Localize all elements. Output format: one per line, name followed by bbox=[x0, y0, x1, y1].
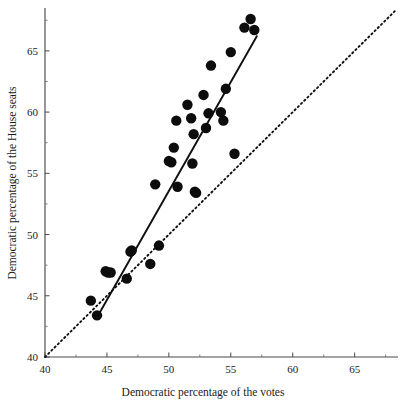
data-point bbox=[249, 25, 259, 35]
y-tick-label: 60 bbox=[27, 106, 39, 118]
x-tick-label: 50 bbox=[163, 363, 175, 375]
data-point bbox=[187, 158, 197, 168]
x-axis-ticks bbox=[45, 353, 386, 358]
x-tick-label: 60 bbox=[287, 363, 299, 375]
data-point bbox=[92, 310, 102, 320]
scatter-plot-figure: 404550556065 455055606540 Democratic per… bbox=[0, 0, 403, 406]
x-tick-label: 40 bbox=[40, 363, 52, 375]
data-point bbox=[166, 157, 176, 167]
x-axis-tick-labels: 404550556065 bbox=[40, 363, 361, 375]
data-point bbox=[191, 188, 201, 198]
data-point bbox=[86, 295, 96, 305]
data-point bbox=[145, 259, 155, 269]
y-axis-tick-labels: 455055606540 bbox=[27, 45, 39, 363]
data-point bbox=[245, 14, 255, 24]
x-tick-label: 45 bbox=[101, 363, 113, 375]
data-point bbox=[239, 22, 249, 32]
y-axis-ticks bbox=[45, 20, 50, 357]
plot-canvas: 404550556065 455055606540 Democratic per… bbox=[0, 0, 403, 406]
y-axis-title: Democratic percentage of the House seats bbox=[6, 86, 19, 280]
data-point bbox=[218, 115, 228, 125]
x-axis-title: Democratic percentage of the votes bbox=[122, 386, 285, 399]
proportionality-reference-line bbox=[45, 9, 397, 357]
data-point bbox=[150, 179, 160, 189]
regression-fit-line bbox=[99, 36, 256, 313]
data-point bbox=[169, 142, 179, 152]
data-point bbox=[201, 123, 211, 133]
data-point bbox=[198, 90, 208, 100]
data-point bbox=[221, 84, 231, 94]
data-point bbox=[229, 149, 239, 159]
data-point bbox=[182, 100, 192, 110]
data-point bbox=[172, 182, 182, 192]
data-point bbox=[171, 115, 181, 125]
data-point bbox=[186, 113, 196, 123]
y-tick-label: 55 bbox=[27, 167, 39, 179]
data-point bbox=[203, 108, 213, 118]
y-tick-label: 65 bbox=[27, 45, 39, 57]
data-point bbox=[226, 47, 236, 57]
data-point bbox=[154, 240, 164, 250]
y-tick-label: 40 bbox=[27, 351, 39, 363]
data-point bbox=[127, 245, 137, 255]
y-tick-label: 45 bbox=[27, 290, 39, 302]
x-tick-label: 65 bbox=[349, 363, 361, 375]
data-point bbox=[105, 267, 115, 277]
data-point bbox=[206, 60, 216, 70]
data-points-group bbox=[86, 14, 260, 321]
data-point bbox=[122, 273, 132, 283]
y-tick-label: 50 bbox=[27, 229, 39, 241]
data-point bbox=[188, 129, 198, 139]
x-tick-label: 55 bbox=[225, 363, 237, 375]
